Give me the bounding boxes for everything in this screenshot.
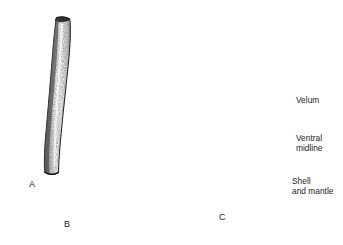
callout-label-ventral-midline: Ventral midline <box>296 133 323 153</box>
callout-label-velum: Velum <box>296 95 319 105</box>
panel-letter-a: A <box>29 180 35 189</box>
panel-letter-c: C <box>219 213 226 222</box>
panel-letter-b: B <box>64 220 70 229</box>
callout-label-shell-and-mantle: Shell and mantle <box>292 176 333 196</box>
figure-plate <box>0 0 343 245</box>
